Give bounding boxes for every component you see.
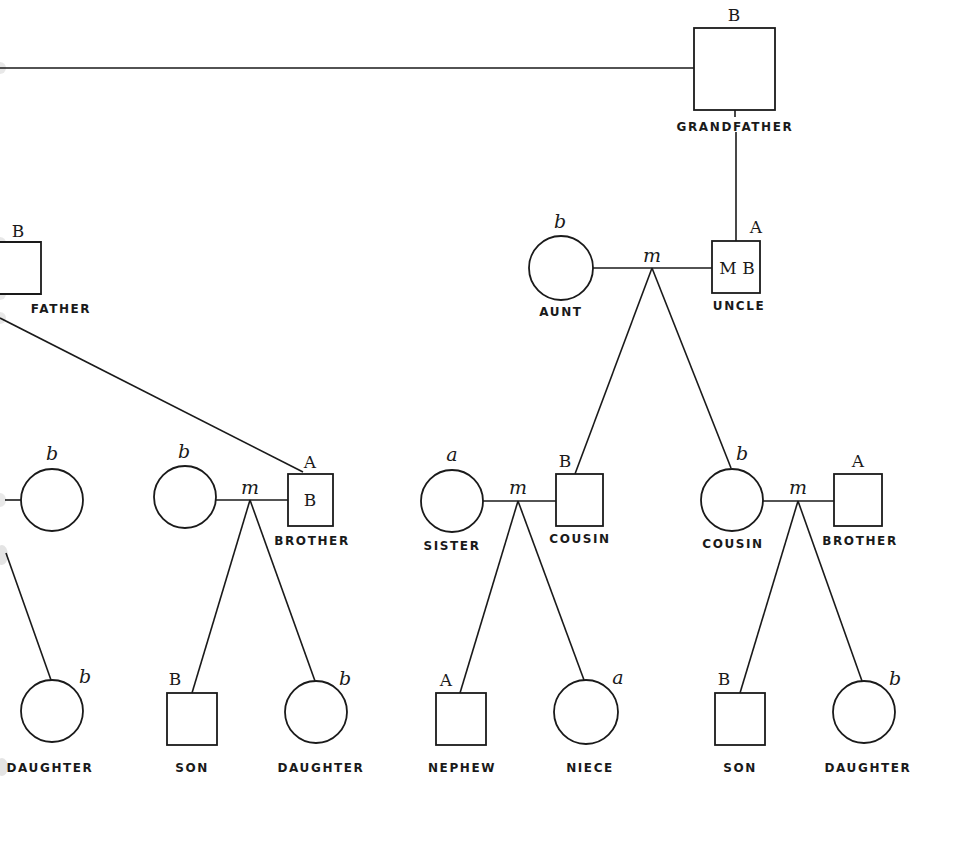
person-daughter-2: b DAUGHTER <box>278 667 365 775</box>
gene-label: B <box>169 669 182 689</box>
person-aunt: b AUNT <box>529 210 593 319</box>
person-label: FATHER <box>31 302 91 316</box>
female-circle-symbol <box>701 469 763 531</box>
person-daughter-1: b DAUGHTER <box>7 665 94 775</box>
uncle-child-line-cousin-male <box>575 268 652 474</box>
gene-label: B <box>12 221 25 241</box>
female-circle-symbol <box>154 466 216 528</box>
pedigree-diagram: B GRANDFATHER B FATHER b AUNT m A M B UN… <box>0 0 980 841</box>
gene-label: B <box>718 669 731 689</box>
female-circle-symbol <box>21 469 83 531</box>
person-label: SON <box>175 761 209 775</box>
marriage-symbol: m <box>643 244 661 266</box>
cousin-child-line-daughter <box>798 501 862 681</box>
male-square-symbol <box>834 474 882 526</box>
female-circle-symbol <box>421 470 483 532</box>
gene-label: A <box>851 451 865 471</box>
person-father: B FATHER <box>0 221 91 316</box>
gene-label-outer: A <box>303 452 317 472</box>
person-label: DAUGHTER <box>825 761 912 775</box>
gene-label: B <box>559 451 572 471</box>
sister-child-line-niece <box>518 501 584 680</box>
person-label: SISTER <box>424 539 481 553</box>
person-brother-2: A BROTHER <box>822 451 897 548</box>
person-niece: a NIECE <box>554 666 624 775</box>
person-son-2: B SON <box>715 669 765 775</box>
person-label: AUNT <box>539 305 582 319</box>
person-uncle: A M B UNCLE <box>712 217 765 313</box>
person-cousin-male: B COUSIN <box>549 451 611 546</box>
male-square-symbol <box>556 474 603 526</box>
male-square-symbol <box>167 693 217 745</box>
brother-1-child-line-son <box>192 500 250 693</box>
person-label: BROTHER <box>822 534 897 548</box>
person-son-1: B SON <box>167 669 217 775</box>
gene-label: b <box>339 667 351 689</box>
person-label: NEPHEW <box>428 761 496 775</box>
uncle-child-line-cousin-female <box>652 268 731 468</box>
person-label: UNCLE <box>713 299 765 313</box>
gene-label: b <box>736 442 748 464</box>
person-daughter-3: b DAUGHTER <box>825 667 912 775</box>
person-label: NIECE <box>566 761 614 775</box>
gene-label: b <box>178 440 190 462</box>
gene-label-inner: B <box>304 490 317 510</box>
female-circle-symbol <box>21 680 83 742</box>
scan-edge-shadow <box>0 62 8 776</box>
gene-label: a <box>446 443 457 465</box>
person-label: COUSIN <box>702 537 764 551</box>
marriage-symbol: m <box>509 476 527 498</box>
person-label: BROTHER <box>274 534 349 548</box>
gene-label: B <box>728 5 741 25</box>
person-mother-left: b <box>21 442 83 531</box>
gene-label: a <box>612 666 623 688</box>
left-child-line-daughter <box>6 553 51 680</box>
female-circle-symbol <box>833 681 895 743</box>
gene-label: b <box>889 667 901 689</box>
female-circle-symbol <box>554 680 618 744</box>
person-label: GRANDFATHER <box>677 120 794 134</box>
brother-1-child-line-daughter <box>250 500 315 681</box>
connector-lines <box>0 68 862 693</box>
female-circle-symbol <box>285 681 347 743</box>
male-square-symbol <box>694 28 775 110</box>
marriage-symbol: m <box>241 476 259 498</box>
male-square-symbol <box>0 242 41 294</box>
person-label: DAUGHTER <box>7 761 94 775</box>
marriage-symbol: m <box>789 476 807 498</box>
gene-label: A <box>439 670 453 690</box>
gene-label-outer: A <box>749 217 763 237</box>
gene-label: b <box>46 442 58 464</box>
sister-child-line-nephew <box>460 501 518 693</box>
female-circle-symbol <box>529 236 593 300</box>
gene-label: b <box>79 665 91 687</box>
person-sister: a SISTER <box>421 443 483 553</box>
person-sister-in-law: b <box>154 440 216 528</box>
male-square-symbol <box>715 693 765 745</box>
person-label: SON <box>723 761 757 775</box>
cousin-child-line-son <box>740 501 798 693</box>
male-square-symbol <box>436 693 486 745</box>
person-cousin-female: b COUSIN <box>701 442 764 551</box>
gene-label: b <box>554 210 566 232</box>
person-label: COUSIN <box>549 532 611 546</box>
person-label: DAUGHTER <box>278 761 365 775</box>
gene-label-inner: M B <box>719 258 754 278</box>
